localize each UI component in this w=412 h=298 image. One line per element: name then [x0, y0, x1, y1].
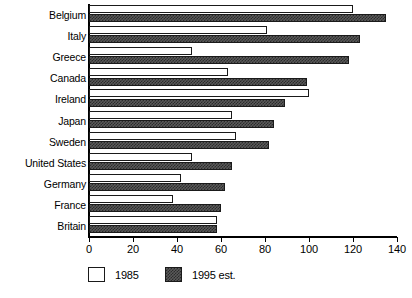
bar-1985: [89, 26, 267, 34]
x-tick: [89, 237, 90, 242]
bar-1995: [89, 120, 274, 128]
bar-1995: [89, 56, 349, 64]
x-tick: [309, 237, 310, 242]
category-label: United States: [25, 158, 86, 169]
bar-1995: [89, 204, 221, 212]
x-tick-label: 100: [289, 243, 329, 255]
x-tick-label: 40: [157, 243, 197, 255]
x-tick-label: 0: [69, 243, 109, 255]
legend-item-1985: 1985: [88, 267, 139, 282]
legend-item-1995: 1995 est.: [165, 267, 235, 282]
x-tick-label: 120: [333, 243, 373, 255]
x-tick: [221, 237, 222, 242]
chart-legend: 1985 1995 est.: [0, 262, 412, 298]
x-tick: [353, 237, 354, 242]
bar-1995: [89, 99, 285, 107]
bar-1985: [89, 111, 232, 119]
bar-1995: [89, 14, 386, 22]
category-label: Belgium: [49, 10, 86, 21]
category-label: Ireland: [55, 94, 86, 105]
bar-1995: [89, 78, 307, 86]
x-tick-label: 80: [245, 243, 285, 255]
x-tick: [397, 237, 398, 242]
category-label: Japan: [58, 116, 86, 127]
legend-label-1985: 1985: [115, 269, 139, 281]
x-tick: [265, 237, 266, 242]
x-axis-line: [88, 236, 397, 238]
bar-1985: [89, 5, 353, 13]
bar-1995: [89, 35, 360, 43]
bar-1985: [89, 89, 309, 97]
category-label: Sweden: [49, 137, 86, 148]
legend-label-1995: 1995 est.: [192, 269, 235, 281]
category-label: Greece: [52, 52, 86, 63]
bar-1985: [89, 153, 192, 161]
category-label: Britain: [57, 221, 86, 232]
bar-1995: [89, 183, 225, 191]
legend-swatch-1995: [165, 267, 182, 282]
bar-1985: [89, 68, 228, 76]
category-label: Canada: [50, 73, 86, 84]
x-tick: [177, 237, 178, 242]
bar-1995: [89, 162, 232, 170]
category-label: Italy: [67, 31, 86, 42]
bar-1985: [89, 132, 236, 140]
bar-chart: 020406080100120140 BelgiumItalyGreeceCan…: [0, 0, 412, 298]
category-label: France: [54, 200, 86, 211]
plot-area: 020406080100120140 BelgiumItalyGreeceCan…: [0, 0, 412, 258]
bar-1995: [89, 225, 217, 233]
legend-swatch-1985: [88, 267, 105, 282]
x-tick-label: 140: [377, 243, 412, 255]
x-tick: [133, 237, 134, 242]
x-tick-label: 60: [201, 243, 241, 255]
bar-1985: [89, 195, 173, 203]
bar-1995: [89, 141, 269, 149]
bar-1985: [89, 47, 192, 55]
bar-1985: [89, 174, 181, 182]
category-label: Germany: [44, 179, 86, 190]
x-tick-label: 20: [113, 243, 153, 255]
bar-1985: [89, 216, 217, 224]
